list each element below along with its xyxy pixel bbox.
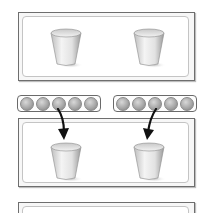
cup-icon	[132, 141, 166, 183]
arrow-down-icon	[52, 108, 72, 144]
cup-icon	[132, 27, 166, 69]
panel-top	[18, 12, 195, 81]
ball	[116, 97, 130, 111]
ball	[164, 97, 178, 111]
panel-bottom	[18, 202, 195, 213]
ball	[84, 97, 98, 111]
panel-bottom-inner	[22, 206, 189, 213]
arrow-down-icon	[140, 108, 160, 144]
cup-icon	[49, 141, 83, 183]
panel-middle	[18, 118, 195, 187]
ball	[36, 97, 50, 111]
cup-icon	[49, 27, 83, 69]
ball	[180, 97, 194, 111]
ball	[20, 97, 34, 111]
